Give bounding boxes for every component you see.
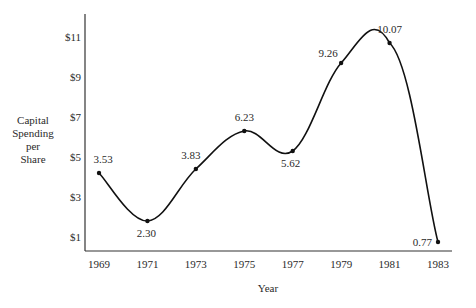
y-tick-labels: $1$3$5$7$9$11	[65, 31, 82, 243]
x-tick-label: 1983	[427, 258, 450, 270]
x-tick-label: 1977	[282, 258, 305, 270]
data-label: 3.53	[93, 153, 113, 165]
y-tick-label: $7	[70, 111, 82, 123]
data-label: 5.62	[281, 157, 300, 169]
x-tick-label: 1981	[379, 258, 401, 270]
x-tick-label: 1979	[330, 258, 353, 270]
data-label: 0.77	[413, 236, 433, 248]
series-line	[99, 29, 438, 242]
y-axis-title-line: per	[26, 140, 40, 152]
x-tick-label: 1973	[185, 258, 208, 270]
data-point	[436, 240, 440, 244]
data-label: 9.26	[319, 47, 339, 59]
data-point	[194, 167, 198, 171]
data-point	[97, 171, 101, 175]
data-points	[97, 41, 440, 244]
x-axis-title: Year	[258, 282, 279, 294]
y-tick-label: $9	[70, 71, 82, 83]
data-label: 2.30	[137, 227, 157, 239]
y-tick-label: $5	[70, 151, 82, 163]
y-tick-label: $3	[70, 191, 82, 203]
data-point	[387, 41, 391, 45]
x-tick-label: 1975	[233, 258, 256, 270]
x-tick-labels: 19691971197319751977197919811983	[88, 258, 450, 270]
data-point	[339, 61, 343, 65]
data-point	[145, 219, 149, 223]
data-point	[291, 149, 295, 153]
x-tick-label: 1969	[88, 258, 111, 270]
data-point	[242, 129, 246, 133]
data-label: 3.83	[181, 149, 201, 161]
y-axis-title-line: Spending	[12, 127, 54, 139]
y-axis-title-line: Share	[20, 153, 45, 165]
data-label: 10.07	[377, 23, 402, 35]
y-axis-title: CapitalSpendingperShare	[12, 114, 54, 165]
data-labels: 3.532.303.836.235.629.2610.070.77	[93, 23, 432, 248]
data-label: 6.23	[235, 111, 255, 123]
axes	[85, 14, 452, 251]
y-tick-label: $1	[70, 231, 81, 243]
line-chart: $1$3$5$7$9$11 19691971197319751977197919…	[0, 0, 476, 308]
y-axis-title-line: Capital	[17, 114, 49, 126]
y-tick-label: $11	[65, 31, 81, 43]
x-tick-label: 1971	[136, 258, 158, 270]
